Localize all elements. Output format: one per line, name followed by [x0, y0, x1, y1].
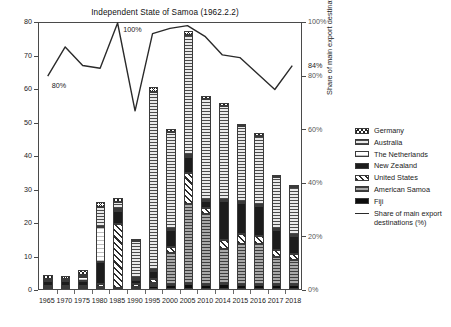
x-tick-mark — [57, 290, 58, 294]
annotation-80pct: 80% — [52, 81, 66, 90]
x-tick-mark — [145, 290, 146, 294]
x-tick-mark — [74, 290, 75, 294]
legend-swatch-icon — [355, 139, 369, 145]
legend-item-fiji[interactable]: Fiji — [355, 197, 451, 206]
y2-tick-label: 100% — [308, 18, 338, 25]
chart-title: Independent State of Samoa (1962.2.2) — [0, 8, 330, 17]
legend-swatch-icon — [355, 175, 369, 181]
y-tick-mark — [34, 290, 38, 291]
y2-tick-mark — [302, 22, 306, 23]
y-tick-label: 10 — [6, 253, 32, 260]
x-tick-mark — [162, 290, 163, 294]
x-tick-mark — [285, 290, 286, 294]
x-tick-mark — [250, 290, 251, 294]
legend: GermanyAustraliaThe NetherlandsNew Zeala… — [355, 126, 451, 230]
y2-tick-mark — [302, 236, 306, 237]
legend-label: Germany — [374, 126, 404, 135]
y-tick-label: 50 — [6, 119, 32, 126]
legend-label: American Samoa — [374, 185, 430, 194]
chart-root: Independent State of Samoa (1962.2.2) Mi… — [0, 0, 451, 327]
y-tick-label: 0 — [6, 286, 32, 293]
legend-label: Share of main export destinations (%) — [374, 209, 451, 227]
y2-tick-label: 80% — [308, 72, 338, 79]
legend-swatch-icon — [355, 151, 369, 157]
x-tick-mark — [180, 290, 181, 294]
legend-label: New Zealand — [374, 161, 417, 170]
legend-label: Australia — [374, 138, 402, 147]
legend-label: Fiji — [374, 197, 383, 206]
x-tick-mark — [233, 290, 234, 294]
x-tick-mark — [197, 290, 198, 294]
x-tick-label-2018: 2018 — [282, 298, 304, 305]
y2-tick-label: 60% — [308, 126, 338, 133]
plot-inner: 80%100%84% — [39, 23, 301, 289]
legend-item-germany[interactable]: Germany — [355, 126, 451, 135]
y2-tick-mark — [302, 290, 306, 291]
legend-label: The Netherlands — [374, 150, 428, 159]
annotation-100pct: 100% — [123, 25, 141, 34]
x-tick-mark — [127, 290, 128, 294]
y-tick-label: 70 — [6, 52, 32, 59]
legend-item-the-netherlands[interactable]: The Netherlands — [355, 150, 451, 159]
legend-item-american-samoa[interactable]: American Samoa — [355, 185, 451, 194]
x-tick-mark — [109, 290, 110, 294]
x-tick-mark — [215, 290, 216, 294]
y2-tick-label: 20% — [308, 233, 338, 240]
y-tick-label: 40 — [6, 152, 32, 159]
y-tick-label: 80 — [6, 18, 32, 25]
y2-tick-mark — [302, 76, 306, 77]
y2-tick-label: 0% — [308, 286, 338, 293]
legend-line-swatch — [355, 210, 369, 216]
legend-item-new-zealand[interactable]: New Zealand — [355, 161, 451, 170]
y-tick-label: 60 — [6, 85, 32, 92]
x-tick-mark — [92, 290, 93, 294]
plot-area: 80%100%84% — [38, 22, 302, 290]
share-line-path — [48, 23, 293, 111]
legend-item-share-of-main-export-destinations[interactable]: Share of main export destinations (%) — [355, 209, 451, 227]
y-axis-right-title: Share of main export destinations (%) — [325, 0, 334, 95]
y-tick-label: 20 — [6, 219, 32, 226]
legend-item-united-states[interactable]: United States — [355, 173, 451, 182]
legend-swatch-icon — [355, 128, 369, 134]
legend-swatch-icon — [355, 163, 369, 169]
y2-tick-label: 40% — [308, 179, 338, 186]
annotation-84pct: 84% — [308, 61, 322, 70]
y2-tick-mark — [302, 183, 306, 184]
y-tick-label: 30 — [6, 186, 32, 193]
legend-item-australia[interactable]: Australia — [355, 138, 451, 147]
x-tick-mark — [268, 290, 269, 294]
legend-swatch-icon — [355, 198, 369, 204]
legend-swatch-icon — [355, 186, 369, 192]
share-line-series — [39, 23, 301, 289]
y2-tick-mark — [302, 129, 306, 130]
legend-label: United States — [374, 173, 418, 182]
